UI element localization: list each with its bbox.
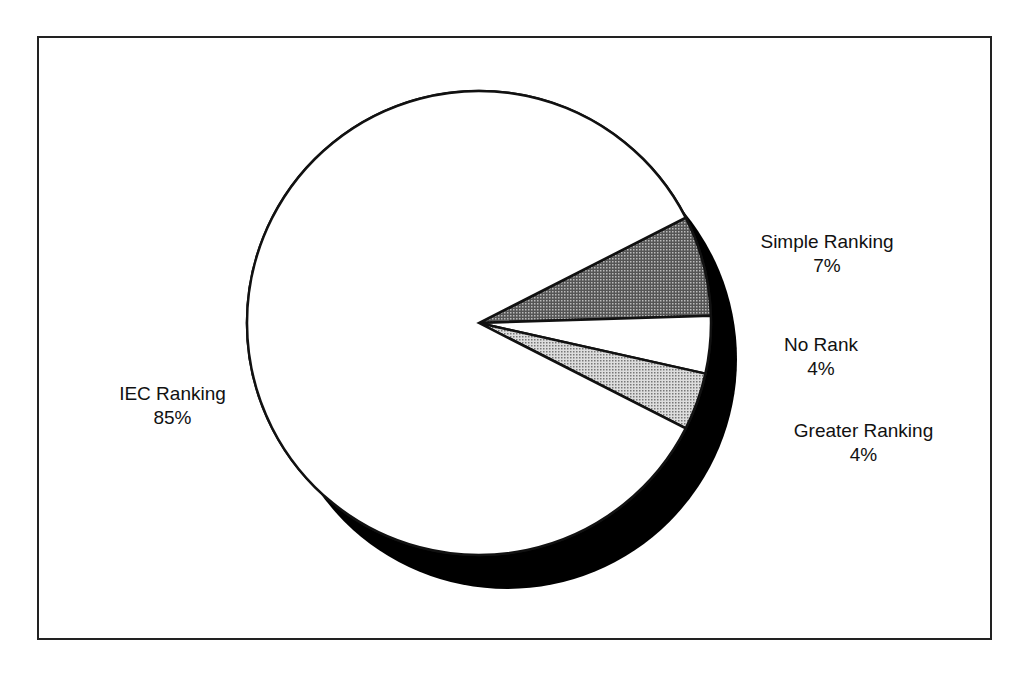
label-simple-ranking: Simple Ranking 7% [742, 230, 912, 278]
label-no-rank-name: No Rank [766, 333, 876, 357]
label-iec-ranking: IEC Ranking 85% [95, 382, 250, 430]
label-greater-ranking-pct: 4% [756, 443, 971, 467]
label-simple-ranking-name: Simple Ranking [742, 230, 912, 254]
label-iec-ranking-pct: 85% [95, 406, 250, 430]
label-iec-ranking-name: IEC Ranking [95, 382, 250, 406]
label-greater-ranking: Greater Ranking 4% [756, 419, 971, 467]
pie-slices [247, 91, 711, 555]
label-greater-ranking-name: Greater Ranking [756, 419, 971, 443]
label-no-rank: No Rank 4% [766, 333, 876, 381]
label-simple-ranking-pct: 7% [742, 254, 912, 278]
label-no-rank-pct: 4% [766, 357, 876, 381]
